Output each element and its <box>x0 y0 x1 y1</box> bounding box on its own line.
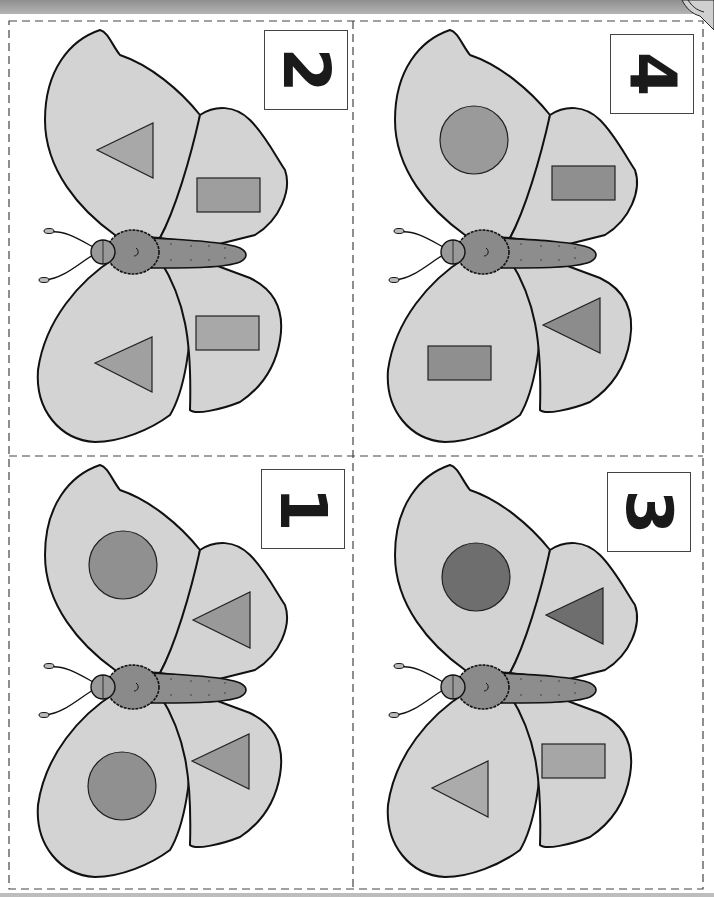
card-3-number-box: 3 <box>607 472 691 552</box>
card-3-butterfly <box>388 465 637 877</box>
bottom-edge-strip <box>0 893 714 897</box>
card-number: 2 <box>274 48 338 93</box>
card-2-number-box: 2 <box>264 30 348 110</box>
cutout-sheet <box>0 0 714 897</box>
card-number: 4 <box>620 52 684 97</box>
card-1-number-box: 1 <box>261 469 345 549</box>
card-number: 1 <box>271 487 335 532</box>
card-number: 3 <box>617 490 681 535</box>
card-2-butterfly <box>38 30 287 442</box>
card-4-number-box: 4 <box>610 34 694 114</box>
card-4-butterfly <box>388 30 637 442</box>
card-1-butterfly <box>38 465 287 877</box>
